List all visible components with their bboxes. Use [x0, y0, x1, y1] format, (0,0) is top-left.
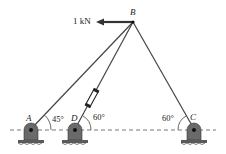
- point-label-d: D: [71, 114, 78, 123]
- pin-support-d: [62, 123, 88, 145]
- member-ab: [31, 22, 133, 129]
- turnbuckle-icon: [85, 88, 100, 108]
- force-arrow-head-icon: [96, 19, 104, 26]
- angle-arc-d: [83, 116, 91, 130]
- angle-arc-c: [178, 116, 186, 130]
- diagram-svg: [0, 0, 226, 154]
- statics-diagram: 1 kN B A D C 45° 60° 60°: [0, 0, 226, 154]
- point-label-b: B: [130, 8, 136, 17]
- pin-support-a: [18, 123, 44, 145]
- force-label: 1 kN: [73, 17, 91, 26]
- point-label-a: A: [26, 114, 32, 123]
- angle-label-a: 45°: [52, 115, 64, 124]
- point-label-c: C: [190, 113, 196, 122]
- angle-arc-a: [45, 116, 51, 131]
- joint-b: [131, 20, 134, 23]
- angle-label-c: 60°: [162, 114, 174, 123]
- angle-label-d: 60°: [93, 113, 105, 122]
- pin-support-c: [181, 123, 207, 145]
